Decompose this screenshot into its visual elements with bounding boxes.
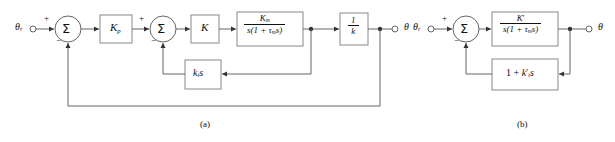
sum1-symbol-a: Σ [62,22,70,35]
input-label-a: θr [15,22,22,33]
block-k-label-a: K [201,22,208,33]
sum1-minus-sign-a: − [56,36,61,45]
diagram-a-wires [30,12,398,106]
output-label-a: θ [404,22,409,32]
block-tachometer-label-a: kts [193,68,203,79]
input-label-b: θr [413,22,420,33]
block-plant-label-a: Km s(1 + τms) [244,14,285,36]
sum1-plus-sign-a: + [44,14,49,23]
output-label-b: θ [598,22,603,32]
input-terminal-a [30,26,36,32]
output-terminal-b [586,26,592,32]
output-terminal-a [392,26,398,32]
sum2-minus-sign-a: − [151,36,156,45]
block-kp-label-a: Kp [110,22,121,34]
sum1-minus-sign-b: − [454,36,459,45]
block-plant-label-b: K′ s(1 + τms) [500,14,541,35]
block-gain-label-a: 1 k [348,16,359,36]
caption-a: (a) [200,120,210,129]
input-terminal-b [428,26,434,32]
sum2-symbol-a: Σ [157,22,165,35]
figure-container: θr + − Σ Kp + − Σ K Km s(1 + τms) 1 k θ … [0,0,615,142]
caption-b: (b) [517,120,528,129]
block-feedback-label-b: 1 + k′ts [506,68,534,79]
sum1-symbol-b: Σ [460,22,468,35]
sum1-plus-sign-b: + [442,14,447,23]
sum2-plus-sign-a: + [139,14,144,23]
